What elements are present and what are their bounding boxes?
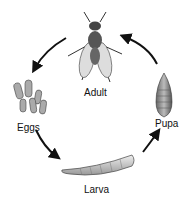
stage-label-pupa: Pupa <box>155 118 178 129</box>
arrow-adult-to-eggs <box>35 38 66 68</box>
pupa-icon <box>156 73 172 117</box>
eggs-icon <box>13 80 47 114</box>
stage-label-eggs: Eggs <box>17 122 40 133</box>
arrow-larva-to-pupa <box>143 133 157 152</box>
adult-fly-icon <box>68 12 122 82</box>
larva-icon <box>62 155 134 175</box>
stage-label-larva: Larva <box>84 184 109 195</box>
stage-label-adult: Adult <box>84 87 107 98</box>
life-cycle-diagram <box>0 0 190 208</box>
arrow-pupa-to-adult <box>125 37 157 64</box>
arrow-eggs-to-larva <box>36 130 56 156</box>
